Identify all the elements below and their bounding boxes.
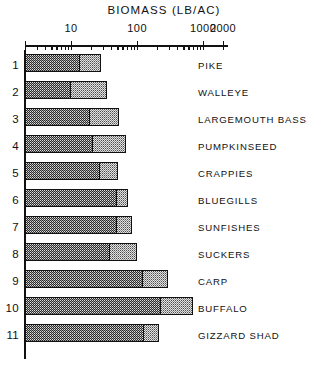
row-number: 11: [0, 329, 19, 341]
x-tick-label: 10: [65, 22, 78, 34]
bar-segment-low: [26, 109, 89, 125]
bar-row: 7SUNFISHES: [0, 213, 324, 240]
bar-segment-low: [26, 163, 99, 179]
bar-segment-high: [116, 217, 131, 233]
x-tick-major: [137, 41, 138, 50]
row-number: 6: [0, 194, 19, 206]
chart-title: BIOMASS (LB/AC): [0, 4, 324, 16]
x-tick-label: 2000: [210, 22, 236, 34]
bar-segment-high: [79, 55, 100, 71]
bar-segment-low: [26, 55, 79, 71]
row-number: 9: [0, 275, 19, 287]
plot-area: 1PIKE2WALLEYE3LARGEMOUTH BASS4PUMPKINSEE…: [0, 50, 324, 365]
row-number: 5: [0, 167, 19, 179]
bar-segment-high: [116, 190, 127, 206]
bar-row: 6BLUEGILLS: [0, 186, 324, 213]
row-number: 7: [0, 221, 19, 233]
bar-segment-high: [160, 298, 192, 314]
bar-row: 5CRAPPIES: [0, 159, 324, 186]
species-label: SUCKERS: [198, 248, 250, 259]
bar-segment-low: [26, 136, 92, 152]
species-label: BUFFALO: [198, 302, 248, 313]
bar-row: 3LARGEMOUTH BASS: [0, 105, 324, 132]
species-label: PUMPKINSEED: [198, 140, 277, 151]
biomass-bar: [25, 135, 126, 153]
biomass-chart: BIOMASS (LB/AC) 1010010002000 1PIKE2WALL…: [0, 0, 324, 370]
x-tick-major: [223, 41, 224, 50]
row-number: 8: [0, 248, 19, 260]
bar-segment-high: [143, 325, 158, 341]
bar-segment-low: [26, 190, 116, 206]
biomass-bar: [25, 108, 119, 126]
bar-row: 8SUCKERS: [0, 240, 324, 267]
bar-segment-low: [26, 298, 160, 314]
bar-segment-high: [92, 136, 125, 152]
x-tick-label: 100: [127, 22, 147, 34]
species-label: WALLEYE: [198, 86, 249, 97]
bar-row: 4PUMPKINSEED: [0, 132, 324, 159]
bar-segment-low: [26, 271, 142, 287]
bar-segment-high: [70, 82, 106, 98]
biomass-bar: [25, 243, 137, 261]
biomass-bar: [25, 54, 101, 72]
biomass-bar: [25, 270, 168, 288]
row-number: 4: [0, 140, 19, 152]
biomass-bar: [25, 81, 107, 99]
biomass-bar: [25, 189, 128, 207]
species-label: CARP: [198, 275, 228, 286]
bar-row: 2WALLEYE: [0, 78, 324, 105]
row-number: 2: [0, 86, 19, 98]
bar-segment-high: [99, 163, 117, 179]
species-label: GIZZARD SHAD: [198, 329, 280, 340]
x-tick-major: [203, 41, 204, 50]
bar-row: 9CARP: [0, 267, 324, 294]
row-number: 1: [0, 59, 19, 71]
x-tick-origin: [25, 41, 26, 50]
species-label: LARGEMOUTH BASS: [198, 113, 307, 124]
bar-row: 1PIKE: [0, 51, 324, 78]
biomass-bar: [25, 324, 159, 342]
species-label: PIKE: [198, 59, 223, 70]
row-number: 10: [0, 302, 19, 314]
bar-segment-high: [142, 271, 167, 287]
biomass-bar: [25, 216, 132, 234]
bar-segment-low: [26, 82, 70, 98]
x-axis: 1010010002000: [0, 22, 324, 50]
x-tick-major: [71, 41, 72, 50]
bar-segment-low: [26, 217, 116, 233]
bar-row: 10BUFFALO: [0, 294, 324, 321]
species-label: BLUEGILLS: [198, 194, 258, 205]
row-number: 3: [0, 113, 19, 125]
bar-segment-low: [26, 325, 143, 341]
bar-row: 11GIZZARD SHAD: [0, 321, 324, 348]
bar-segment-low: [26, 244, 109, 260]
biomass-bar: [25, 162, 118, 180]
species-label: SUNFISHES: [198, 221, 261, 232]
bar-segment-high: [89, 109, 118, 125]
biomass-bar: [25, 297, 193, 315]
bar-segment-high: [109, 244, 136, 260]
species-label: CRAPPIES: [198, 167, 253, 178]
